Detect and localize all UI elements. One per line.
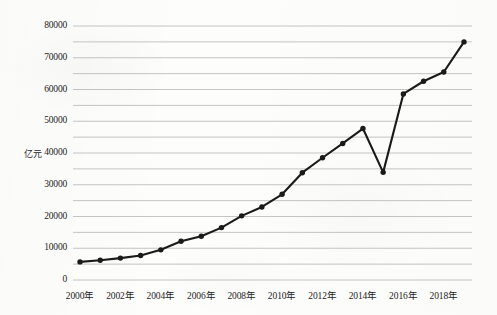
- data-point-marker: [340, 141, 345, 146]
- x-tick-label: 2014年: [342, 288, 384, 302]
- data-point-marker: [320, 155, 325, 160]
- y-tick-label: 20000: [44, 211, 67, 221]
- data-point-marker: [239, 213, 244, 218]
- data-point-marker: [178, 239, 183, 244]
- x-tick-label: 2000年: [59, 288, 101, 302]
- x-tick-label: 2018年: [423, 288, 465, 302]
- y-tick-label: 0: [62, 274, 67, 284]
- data-point-marker: [138, 253, 143, 258]
- data-point-marker: [219, 225, 224, 230]
- plot-area: [0, 0, 497, 315]
- x-tick-label: 2006年: [180, 288, 222, 302]
- x-tick-label: 2016年: [382, 288, 424, 302]
- y-tick-label: 40000: [44, 147, 67, 157]
- data-point-marker: [401, 91, 406, 96]
- x-tick-label: 2004年: [140, 288, 182, 302]
- data-point-marker: [259, 204, 264, 209]
- data-point-marker: [300, 170, 305, 175]
- y-tick-label: 80000: [44, 20, 67, 30]
- y-tick-label: 70000: [44, 52, 67, 62]
- x-tick-label: 2008年: [221, 288, 263, 302]
- data-point-marker: [199, 233, 204, 238]
- y-tick-label: 10000: [44, 242, 67, 252]
- y-tick-label: 60000: [44, 84, 67, 94]
- data-point-markers-group: [77, 39, 466, 264]
- y-axis-title: 亿元: [24, 147, 42, 160]
- data-point-marker: [360, 126, 365, 131]
- data-point-marker: [98, 258, 103, 263]
- y-tick-label: 50000: [44, 115, 67, 125]
- y-tick-label: 30000: [44, 179, 67, 189]
- data-point-marker: [441, 69, 446, 74]
- data-series-line: [80, 42, 464, 262]
- data-point-marker: [421, 79, 426, 84]
- x-tick-label: 2002年: [99, 288, 141, 302]
- data-point-marker: [77, 259, 82, 264]
- x-tick-label: 2010年: [261, 288, 303, 302]
- data-point-marker: [380, 170, 385, 175]
- data-point-marker: [118, 255, 123, 260]
- data-point-marker: [461, 39, 466, 44]
- gridlines-group: [73, 26, 472, 280]
- x-tick-label: 2012年: [302, 288, 344, 302]
- data-point-marker: [158, 247, 163, 252]
- data-point-marker: [279, 192, 284, 197]
- line-chart: 亿元 0100002000030000400005000060000700008…: [0, 0, 497, 315]
